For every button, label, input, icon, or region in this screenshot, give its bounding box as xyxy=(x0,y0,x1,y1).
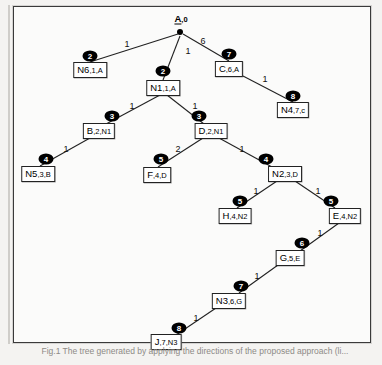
step-badge-N5: 4 xyxy=(39,154,54,165)
node-sub-N2: ,3,D xyxy=(284,170,298,179)
tree-node-G[interactable]: G,5,E xyxy=(276,250,305,266)
tree-node-N1[interactable]: N1,1,A xyxy=(146,80,180,96)
edge-weight-N3-J: 1 xyxy=(193,313,198,323)
edge-weight-E-G: 1 xyxy=(317,228,322,238)
node-sub-N5: ,3,B xyxy=(37,170,50,179)
node-sub-N1: ,1,A xyxy=(162,84,175,93)
figure-caption: Fig.1 The tree generated by applying the… xyxy=(20,346,370,356)
edge-weight-D-F: 2 xyxy=(175,144,180,154)
tree-node-C[interactable]: C,6,A xyxy=(215,61,243,77)
node-sub-N4: ,7,c xyxy=(293,106,305,115)
step-badge-E: 5 xyxy=(324,196,339,207)
step-badge-C: 7 xyxy=(222,49,237,60)
step-badge-N4: 8 xyxy=(286,91,301,102)
edge-weight-N1-B: 1 xyxy=(129,101,134,111)
node-name-N6: N6 xyxy=(77,64,89,75)
tree-node-N6[interactable]: N6,1,A xyxy=(73,62,107,78)
node-sub-G: ,5,E xyxy=(287,254,300,263)
tree-node-D[interactable]: D,2,N1 xyxy=(195,123,228,139)
root-node-dot xyxy=(177,29,183,35)
step-badge-N2: 4 xyxy=(259,154,274,165)
node-sub-N6: ,1,A xyxy=(89,66,102,75)
edge-weight-A-N1: 1 xyxy=(185,46,190,56)
edge-weight-A-N6: 1 xyxy=(124,39,129,49)
step-badge-N6: 2 xyxy=(83,51,98,62)
edge-lines-layer xyxy=(0,0,382,365)
tree-node-H[interactable]: H,4,N2 xyxy=(219,208,252,224)
edge-weight-D-N2: 1 xyxy=(239,144,244,154)
tree-node-N3[interactable]: N3,6,G xyxy=(212,293,246,309)
tree-edge-A-N6 xyxy=(90,34,178,62)
node-sub-F: ,4,D xyxy=(153,171,167,180)
node-sub-N3: ,6,G xyxy=(228,297,242,306)
tree-node-N2[interactable]: N2,3,D xyxy=(268,166,302,182)
node-name-N5: N5 xyxy=(25,168,37,179)
node-name-C: C xyxy=(219,63,226,74)
step-badge-N1: 2 xyxy=(156,66,171,77)
edge-weight-G-N3: 1 xyxy=(254,271,259,281)
node-name-N1: N1 xyxy=(150,82,162,93)
node-sub-D: ,2,N1 xyxy=(205,127,223,136)
edge-weight-C-N4: 1 xyxy=(262,74,267,84)
step-badge-J: 8 xyxy=(172,323,187,334)
tree-figure: 1161111211111122783345455678A,0N6,1,AN1,… xyxy=(0,0,382,365)
step-badge-F: 5 xyxy=(154,154,169,165)
root-node-label: A,0 xyxy=(174,13,187,24)
edge-weight-N2-E: 1 xyxy=(315,186,320,196)
root-node-name: A xyxy=(174,13,181,25)
node-name-N2: N2 xyxy=(272,168,284,179)
node-name-H: H xyxy=(223,210,230,221)
node-sub-C: ,6,A xyxy=(226,65,239,74)
step-badge-G: 6 xyxy=(295,238,310,249)
tree-node-F[interactable]: F,4,D xyxy=(143,167,171,183)
tree-node-N5[interactable]: N5,3,B xyxy=(21,166,55,182)
edge-weight-N2-H: 1 xyxy=(253,186,258,196)
node-sub-H: ,4,N2 xyxy=(229,212,247,221)
step-badge-B: 3 xyxy=(105,111,120,122)
tree-node-N4[interactable]: N4,7,c xyxy=(277,102,309,118)
node-name-N3: N3 xyxy=(216,295,228,306)
tree-node-B[interactable]: B,2,N1 xyxy=(83,123,115,139)
edge-weight-B-N5: 1 xyxy=(63,144,68,154)
tree-node-E[interactable]: E,4,N2 xyxy=(329,208,361,224)
node-name-D: D xyxy=(199,125,206,136)
step-badge-N3: 7 xyxy=(234,281,249,292)
node-sub-B: ,2,N1 xyxy=(93,127,111,136)
node-sub-E: ,4,N2 xyxy=(339,212,357,221)
edge-weight-N1-D: 1 xyxy=(192,101,197,111)
step-badge-H: 5 xyxy=(233,196,248,207)
node-name-N4: N4 xyxy=(281,104,293,115)
edge-weight-A-C: 6 xyxy=(200,36,205,46)
root-node-sub: ,0 xyxy=(181,15,187,24)
step-badge-D: 3 xyxy=(192,111,207,122)
